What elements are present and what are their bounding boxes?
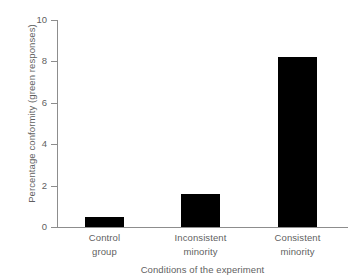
- y-axis-tick-label: 6: [7, 97, 47, 108]
- x-axis-category-label: Controlgroup: [53, 231, 157, 258]
- y-axis-tick-label: 0: [7, 221, 47, 232]
- category-label-line: group: [53, 245, 157, 259]
- y-axis-tick: [51, 20, 57, 21]
- bar: [278, 57, 317, 227]
- x-axis-origin-tick: [51, 227, 57, 228]
- y-axis-tick-label: 2: [7, 180, 47, 191]
- x-axis-line: [57, 227, 348, 228]
- category-label-line: Consistent: [246, 231, 350, 245]
- bar-chart: Percentage conformity (green responses) …: [0, 0, 358, 280]
- bar: [85, 217, 124, 227]
- x-axis-title: Conditions of the experiment: [57, 264, 348, 275]
- y-axis-tick: [51, 61, 57, 62]
- category-label-line: minority: [246, 245, 350, 259]
- y-axis-tick-label: 10: [7, 14, 47, 25]
- x-axis-category-label: Inconsistentminority: [149, 231, 253, 258]
- y-axis-line: [57, 20, 58, 228]
- bar: [181, 194, 220, 227]
- category-label-line: Inconsistent: [149, 231, 253, 245]
- x-axis-category-label: Consistentminority: [246, 231, 350, 258]
- y-axis-tick-label: 4: [7, 138, 47, 149]
- y-axis-tick: [51, 103, 57, 104]
- y-axis-tick: [51, 144, 57, 145]
- y-axis-tick-label: 8: [7, 55, 47, 66]
- category-label-line: Control: [53, 231, 157, 245]
- y-axis-tick: [51, 186, 57, 187]
- category-label-line: minority: [149, 245, 253, 259]
